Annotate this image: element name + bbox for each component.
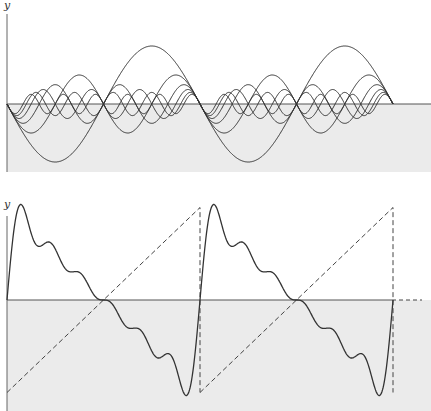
bottom-y-axis-label: y [4,198,10,211]
figure: y y [0,0,431,411]
top-y-axis-label: y [4,0,10,12]
bottom-negative-region [7,300,431,411]
